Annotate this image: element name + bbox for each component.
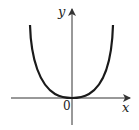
y-axis-label: y bbox=[58, 4, 65, 19]
function-graph-diagram: y x 0 bbox=[0, 0, 139, 130]
origin-label: 0 bbox=[63, 99, 71, 113]
x-axis-label: x bbox=[122, 100, 129, 115]
